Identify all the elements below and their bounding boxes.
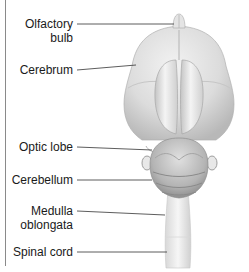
label-olfactory-bulb-line2: bulb: [25, 31, 73, 45]
label-medulla-oblongata: Medulla oblongata: [20, 204, 73, 232]
label-cerebrum-text: Cerebrum: [20, 63, 73, 77]
label-cerebellum: Cerebellum: [12, 173, 73, 187]
cerebellum-shape: [150, 138, 208, 198]
label-spinal-cord-text: Spinal cord: [13, 245, 73, 259]
label-olfactory-bulb: Olfactory bulb: [25, 17, 73, 45]
label-cerebrum: Cerebrum: [20, 63, 73, 77]
label-medulla-line2: oblongata: [20, 218, 73, 232]
label-medulla-line1: Medulla: [20, 204, 73, 218]
leader-line-optic-lobe: [77, 147, 152, 150]
label-spinal-cord: Spinal cord: [13, 245, 73, 259]
spinal-cord-shape: [165, 190, 191, 268]
label-olfactory-bulb-line1: Olfactory: [25, 17, 73, 31]
olfactory-bulb-shape: [173, 14, 185, 28]
label-optic-lobe-text: Optic lobe: [19, 140, 73, 154]
cerebrum-shape: [124, 26, 234, 140]
leader-line-medulla-oblongata: [77, 211, 165, 215]
leader-line-cerebrum: [77, 65, 136, 70]
label-optic-lobe: Optic lobe: [19, 140, 73, 154]
label-cerebellum-text: Cerebellum: [12, 173, 73, 187]
